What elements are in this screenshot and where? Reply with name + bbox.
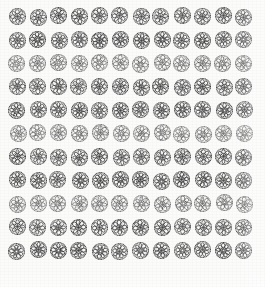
rosette-motif [132,101,149,118]
rosette-motif [71,102,88,119]
rosette-motif [154,31,171,48]
rosette-motif [174,195,192,213]
rosette-motif [174,7,192,25]
rosette-motif [110,218,128,236]
rosette-motif [90,78,108,96]
rosette-motif [29,148,46,165]
rosette-motif [50,219,68,237]
rosette-motif [132,242,149,259]
rosette-motif [152,77,170,95]
rosette-motif [50,32,68,50]
motif-grid [0,0,265,287]
rosette-motif [153,124,171,142]
rosette-motif [194,171,212,189]
rosette-motif [91,7,109,25]
rosette-motif [153,148,171,166]
rosette-motif [70,218,88,236]
rosette-motif [194,54,212,72]
rosette-motif [174,217,192,235]
rosette-motif [215,101,233,119]
rosette-motif [214,30,232,48]
rosette-motif [91,31,109,49]
rosette-motif [215,7,233,25]
rosette-motif [195,219,212,236]
rosette-motif [49,171,67,189]
rosette-motif [70,8,88,26]
rosette-motif [235,54,253,72]
rosette-motif [235,218,253,236]
rosette-motif [91,147,108,164]
rosette-motif [215,194,233,212]
rosette-motif [132,219,150,237]
rosette-motif [29,31,47,49]
rosette-motif [112,148,130,166]
rosette-motif [8,195,26,213]
rosette-motif [173,171,190,188]
rosette-motif [132,55,149,72]
rosette-motif [28,77,46,95]
rosette-motif [71,172,89,190]
rosette-motif [8,171,26,189]
rosette-motif [194,125,212,143]
rosette-motif [91,219,109,237]
rosette-motif [71,124,88,141]
rosette-motif [132,78,150,96]
rosette-motif [8,32,26,50]
rosette-motif [71,148,89,166]
rosette-motif [133,195,151,213]
rosette-motif [235,172,252,189]
rosette-motif [215,148,232,165]
rosette-motif [235,77,253,95]
rosette-motif [173,126,190,143]
rosette-motif [153,54,171,72]
rosette-motif [235,149,252,166]
rosette-motif [30,195,47,212]
rosette-motif [111,7,128,24]
rosette-motif [50,124,67,141]
rosette-motif [29,124,47,142]
rosette-motif [193,78,210,95]
rosette-motif [194,8,211,25]
rosette-motif [90,194,108,212]
rosette-motif [112,78,130,96]
rosette-motif [9,8,27,26]
rosette-motif [8,55,26,73]
rosette-motif [9,124,27,142]
rosette-motif [91,171,109,189]
rosette-motif [71,55,89,73]
rosette-motif [28,219,46,237]
rosette-motif [29,54,46,71]
rosette-motif [193,241,211,259]
rosette-motif [153,195,171,213]
rosette-motif [49,148,67,166]
rosette-motif [8,148,25,165]
rosette-motif [215,242,232,259]
rosette-motif [50,101,68,119]
rosette-motif [173,31,191,49]
rosette-motif [152,8,169,25]
rosette-motif [50,54,67,71]
rosette-motif [235,31,253,49]
rosette-motif [92,242,110,260]
rosette-motif [174,78,191,95]
rosette-motif [235,8,252,25]
rosette-motif [133,31,151,49]
rosette-motif [90,101,108,119]
rosette-motif [235,195,253,213]
rosette-motif [174,242,191,259]
rosette-motif [154,219,171,236]
rosette-motif [92,124,110,142]
rosette-motif [70,78,88,96]
rosette-motif [132,7,150,25]
rosette-motif [153,172,171,190]
rosette-motif [112,31,129,48]
rosette-motif [112,171,129,188]
rosette-motif [173,147,191,165]
rosette-motif [173,101,191,119]
rosette-motif [50,242,67,259]
rosette-motif [153,102,171,120]
rosette-motif [215,172,232,189]
rosette-motif [9,78,26,95]
rosette-motif [194,31,211,48]
rosette-motif [30,241,47,258]
